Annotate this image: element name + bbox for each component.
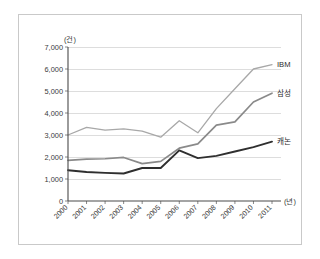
series-line-IBM xyxy=(68,65,272,138)
x-tick-label: 2001 xyxy=(70,203,88,221)
x-tick-label: 2006 xyxy=(163,203,181,221)
series-label-삼성: 삼성 xyxy=(277,88,291,98)
x-tick-label: 2011 xyxy=(256,203,273,220)
series-line-캐논 xyxy=(68,142,272,174)
x-tick-label: 2010 xyxy=(237,203,255,221)
gridlines-group xyxy=(65,47,281,201)
x-tick-label: 2009 xyxy=(219,203,237,221)
y-tick-label: 5,000 xyxy=(45,87,64,96)
x-tick-label: 2002 xyxy=(89,203,107,221)
x-tick-label: 2005 xyxy=(144,203,162,221)
y-tick-label: 6,000 xyxy=(45,65,64,74)
x-axis-tick-labels: 2000200120022003200420052006200720082009… xyxy=(52,203,274,221)
y-axis-tick-labels: 01,0002,0003,0004,0005,0006,0007,000 xyxy=(45,43,64,206)
series-inline-labels: IBM삼성캐논 xyxy=(277,60,291,146)
x-tick-label: 2007 xyxy=(182,203,200,221)
series-label-캐논: 캐논 xyxy=(277,137,291,146)
x-axis-unit-label: (년) xyxy=(284,197,296,206)
x-tick-label: 2003 xyxy=(107,203,125,221)
y-tick-label: 1,000 xyxy=(45,175,64,184)
y-tick-label: 2,000 xyxy=(45,153,64,162)
y-tick-label: 4,000 xyxy=(45,109,64,118)
line-chart: 01,0002,0003,0004,0005,0006,0007,000 200… xyxy=(19,15,303,246)
x-tick-label: 2004 xyxy=(126,203,144,221)
plot-stage: 01,0002,0003,0004,0005,0006,0007,000 200… xyxy=(19,15,303,246)
x-tick-label: 2000 xyxy=(52,203,70,221)
chart-figure-frame: 01,0002,0003,0004,0005,0006,0007,000 200… xyxy=(18,14,302,245)
y-axis-unit-label: (건) xyxy=(64,35,76,44)
series-label-IBM: IBM xyxy=(277,60,291,69)
y-tick-label: 7,000 xyxy=(45,43,64,52)
y-tick-label: 3,000 xyxy=(45,131,64,140)
x-tick-label: 2008 xyxy=(200,203,218,221)
